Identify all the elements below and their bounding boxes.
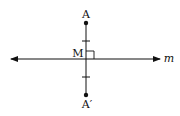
label-a: A bbox=[81, 8, 91, 21]
label-a-prime: A′ bbox=[81, 98, 93, 111]
reflection-diagram: A M m A′ bbox=[0, 0, 180, 116]
right-angle-marker bbox=[86, 51, 94, 59]
label-line-m: m bbox=[164, 52, 174, 65]
point-a-prime bbox=[84, 93, 88, 97]
point-a bbox=[84, 21, 88, 25]
label-m-point: M bbox=[72, 47, 83, 60]
